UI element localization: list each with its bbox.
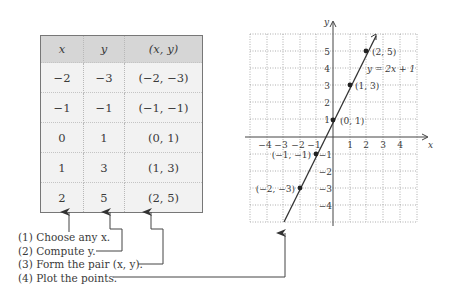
point-label-1-3: (1, 3) xyxy=(355,81,379,91)
arrow-step3 xyxy=(138,212,163,264)
axes xyxy=(245,21,428,226)
point-1-3 xyxy=(348,83,353,88)
svg-text:2: 2 xyxy=(324,98,330,108)
svg-text:4: 4 xyxy=(324,64,330,74)
x-axis-label: x xyxy=(428,140,433,150)
point-label-neg2-neg3: (−2, −3) xyxy=(256,184,295,194)
point-neg1-neg1 xyxy=(314,152,319,157)
point-2-5 xyxy=(364,49,369,54)
point-label-2-5: (2, 5) xyxy=(372,47,396,57)
svg-text:5: 5 xyxy=(324,47,330,57)
arrow-step4 xyxy=(113,233,285,277)
svg-text:−3: −3 xyxy=(274,140,288,150)
svg-text:−2: −2 xyxy=(319,167,332,177)
point-label-0-1: (0, 1) xyxy=(340,116,364,126)
point-0-1 xyxy=(331,118,336,123)
graph-and-arrows: x y −4 −3 −2 −1 1 2 3 4 5 4 3 2 1 −1 −2 … xyxy=(0,0,451,301)
svg-text:−1: −1 xyxy=(307,140,320,150)
svg-text:−3: −3 xyxy=(319,184,333,194)
svg-text:2: 2 xyxy=(363,140,369,150)
svg-text:−4: −4 xyxy=(258,140,272,150)
svg-text:−4: −4 xyxy=(319,201,333,211)
svg-text:3: 3 xyxy=(380,140,386,150)
svg-text:1: 1 xyxy=(324,115,330,125)
arrow-step2 xyxy=(96,212,122,251)
point-label-neg1-neg1: (−1, −1) xyxy=(272,150,311,160)
equation-label: y = 2x + 1 xyxy=(366,64,415,74)
svg-text:4: 4 xyxy=(397,140,403,150)
svg-text:3: 3 xyxy=(324,81,330,91)
svg-text:1: 1 xyxy=(347,140,353,150)
y-axis-label: y xyxy=(323,17,330,27)
point-neg2-neg3 xyxy=(298,186,303,191)
x-tick-labels: −4 −3 −2 −1 1 2 3 4 xyxy=(258,140,403,150)
svg-text:−2: −2 xyxy=(291,140,304,150)
svg-text:−1: −1 xyxy=(319,150,332,160)
line-y-2x-plus-1 xyxy=(284,36,376,222)
